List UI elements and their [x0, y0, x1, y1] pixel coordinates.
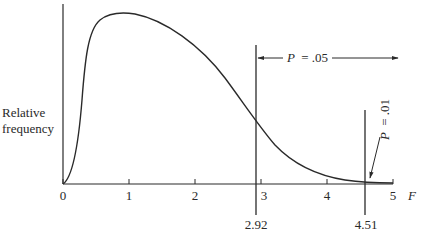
p05-annotation: P = .05: [286, 50, 328, 65]
x-tick-label: 5: [390, 188, 397, 203]
x-tick-label: 2: [192, 188, 199, 203]
p01-annotation: P = .01: [377, 99, 392, 141]
density-curve: [63, 13, 393, 184]
y-axis-label-line2: frequency: [2, 121, 54, 136]
arrow-to-tail-01: [370, 137, 380, 178]
x-axis-label: F: [407, 188, 417, 203]
y-axis-label-line1: Relative: [2, 105, 46, 120]
critical-value-label-01: 4.51: [355, 217, 378, 232]
x-tick-label: 1: [126, 188, 133, 203]
x-tick-label: 4: [324, 188, 331, 203]
x-tick-label: 0: [60, 188, 67, 203]
x-tick-label: 3: [261, 188, 268, 203]
f-distribution-chart: 0 1 2 3 4 5 F Relative frequency 2.92 P …: [0, 0, 423, 237]
critical-value-label-05: 2.92: [245, 217, 268, 232]
